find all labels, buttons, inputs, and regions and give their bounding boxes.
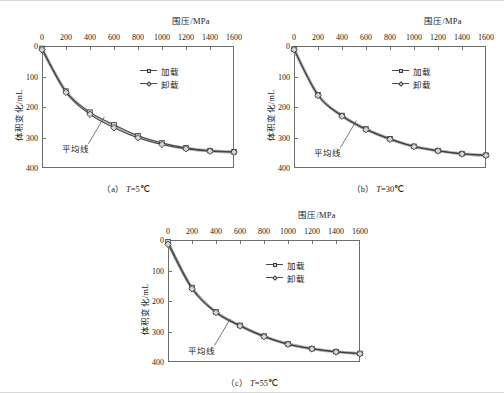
legend-line-swatch xyxy=(266,277,283,278)
diamond-marker xyxy=(146,81,152,87)
legend-line-swatch xyxy=(266,264,283,265)
average-line-annotation: 平均线 xyxy=(62,142,89,154)
average-line-annotation: 平均线 xyxy=(188,344,215,356)
chart-panel-a: 围压/MPa体积变化/mL020040060080010001200140016… xyxy=(0,2,252,198)
legend-item-unloading[interactable]: 卸载 xyxy=(392,77,431,90)
caption-value: =5℃ xyxy=(131,184,150,194)
legend-label: 加载 xyxy=(161,65,179,77)
legend-item-unloading[interactable]: 卸载 xyxy=(266,271,305,284)
legend-label: 加载 xyxy=(287,259,305,271)
legend-line-swatch xyxy=(392,70,409,71)
legend-label: 卸载 xyxy=(413,78,431,90)
panel-caption: （c） T=55℃ xyxy=(126,376,378,388)
legend-line-swatch xyxy=(140,83,157,84)
chart-panel-c: 围压/MPa体积变化/mL020040060080010001200140016… xyxy=(126,196,378,392)
caption-value: =55℃ xyxy=(255,378,278,388)
caption-index: （b） xyxy=(352,184,374,194)
diamond-marker xyxy=(272,275,278,281)
legend-label: 卸载 xyxy=(161,78,179,90)
square-marker xyxy=(273,263,277,267)
square-marker xyxy=(147,69,151,73)
panel-caption: （a） T=5℃ xyxy=(0,182,252,194)
caption-index: （c） xyxy=(226,378,248,388)
panel-caption: （b） T=30℃ xyxy=(252,182,504,194)
legend-item-loading[interactable]: 加载 xyxy=(266,258,305,271)
annotation-leader-line xyxy=(214,319,230,346)
chart-panel-b: 围压/MPa体积变化/mL020040060080010001200140016… xyxy=(252,2,504,198)
legend-item-unloading[interactable]: 卸载 xyxy=(140,77,179,90)
legend-item-loading[interactable]: 加载 xyxy=(392,64,431,77)
legend-label: 加载 xyxy=(413,65,431,77)
series-plot xyxy=(0,2,252,198)
caption-index: （a） xyxy=(102,184,124,194)
average-line-annotation: 平均线 xyxy=(314,146,341,158)
legend: 加载卸载 xyxy=(392,64,431,90)
legend: 加载卸载 xyxy=(266,258,305,284)
legend-line-swatch xyxy=(140,70,157,71)
legend-item-loading[interactable]: 加载 xyxy=(140,64,179,77)
legend-label: 卸载 xyxy=(287,272,305,284)
legend-line-swatch xyxy=(392,83,409,84)
diamond-marker xyxy=(398,81,404,87)
annotation-leader-line xyxy=(88,117,104,144)
legend: 加载卸载 xyxy=(140,64,179,90)
series-plot xyxy=(126,196,378,392)
series-plot xyxy=(252,2,504,198)
square-marker xyxy=(399,69,403,73)
caption-value: =30℃ xyxy=(381,184,404,194)
annotation-leader-line xyxy=(340,121,356,148)
